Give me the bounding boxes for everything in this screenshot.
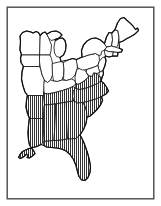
state-minnesota: [20, 31, 40, 55]
eastern-us-map: [0, 0, 161, 206]
state-alabama: [54, 102, 68, 141]
state-indiana: [53, 62, 65, 82]
map-figure: Map of the Eastern United States Outline…: [0, 0, 161, 206]
state-iowa: [21, 55, 41, 67]
figure-frame: [0, 0, 161, 206]
